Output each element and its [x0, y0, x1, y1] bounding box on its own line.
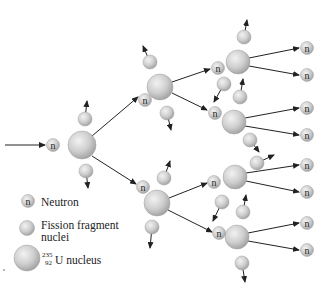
- fission-fragment-icon: [217, 77, 231, 91]
- arrow: [249, 48, 299, 58]
- legend-label-uranium: U nucleus: [55, 254, 101, 266]
- legend-label-fragment-line1: Fission fragment: [41, 219, 119, 231]
- neutron-symbol: n: [141, 182, 146, 193]
- uranium-nucleus-icon: [226, 50, 250, 74]
- neutron-symbol: n: [305, 187, 310, 198]
- fission-fragment-icon: [160, 106, 174, 120]
- arrow: [245, 108, 299, 118]
- fission-fragment-icon: [243, 133, 257, 147]
- atomic-number: 92: [45, 260, 52, 267]
- arrow: [246, 181, 299, 192]
- neutron-symbol: n: [217, 228, 222, 239]
- neutron-symbol: n: [305, 160, 310, 171]
- arrow: [172, 93, 207, 110]
- neutron-symbol: n: [305, 130, 310, 141]
- neutron-symbol: n: [305, 218, 310, 229]
- arrow: [92, 156, 136, 184]
- fission-fragment-icon: [250, 156, 264, 170]
- fission-fragment-icon: [233, 90, 247, 104]
- legend-icons: n: [3, 195, 40, 272]
- neutron-symbol: n: [51, 140, 56, 151]
- dot: [3, 269, 5, 271]
- neutron-symbol: n: [212, 177, 217, 188]
- arrow: [168, 210, 212, 232]
- mass-number: 235: [42, 252, 53, 259]
- fission-fragment-icon: [143, 55, 157, 69]
- legend-label-fragment-line2: nuclei: [41, 231, 69, 243]
- fission-fragment-icon: [157, 171, 171, 185]
- fission-fragment-icon: [235, 256, 249, 270]
- legend-label-neutron: Neutron: [41, 196, 79, 208]
- arrow: [92, 97, 138, 136]
- chain-reaction-diagram: nnnnnnnnnnnnnnn n Neutron Fission fragme…: [0, 0, 330, 296]
- uranium-nucleus-icon: [144, 190, 170, 216]
- uranium-nucleus-icon: [223, 165, 247, 189]
- neutron-symbol: n: [305, 43, 310, 54]
- fission-fragment-icon: [215, 195, 229, 209]
- uranium-nucleus-icon: [222, 110, 246, 134]
- fission-fragment-icon: [145, 220, 159, 234]
- uranium-nucleus-icon: [147, 74, 173, 100]
- arrow: [249, 66, 299, 75]
- neutron-symbol: n: [216, 63, 221, 74]
- neutron-symbol: n: [26, 196, 31, 207]
- arrow: [172, 69, 210, 82]
- neutron-symbol: n: [143, 95, 148, 106]
- neutron-symbol: n: [305, 245, 310, 256]
- neutron-symbol: n: [305, 103, 310, 114]
- neutron-symbol: n: [305, 70, 310, 81]
- fission-fragment-icon: [20, 221, 35, 236]
- arrow: [248, 241, 299, 250]
- arrow: [169, 183, 207, 198]
- fission-fragment-icon: [78, 112, 92, 126]
- fission-fragment-icon: [79, 164, 93, 178]
- uranium-nucleus-icon: [225, 225, 249, 249]
- uranium-nucleus-icon: [68, 131, 96, 159]
- uranium-nucleus-icon: [14, 245, 40, 271]
- neutron-symbol: n: [213, 108, 218, 119]
- arrow: [248, 223, 299, 233]
- fission-fragment-icon: [237, 30, 251, 44]
- fission-fragment-icon: [236, 205, 250, 219]
